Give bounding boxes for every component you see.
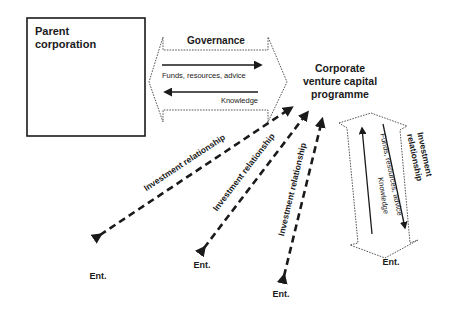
parent-label-line2: corporation — [35, 38, 96, 50]
cvc-diagram: Parent corporation Governance Funds, res… — [0, 0, 458, 321]
cvc-label-line2: venture capital — [303, 75, 377, 87]
detail-block: Knowledge Funds, resources, advice Inves… — [339, 113, 435, 258]
governance-knowledge-label: Knowledge — [221, 96, 258, 105]
governance-title: Governance — [187, 35, 245, 46]
venture-label-3: Ent. — [273, 289, 290, 299]
cvc-node: Corporate venture capital programme — [303, 62, 377, 100]
governance-block: Governance Funds, resources, advice Know… — [149, 35, 287, 122]
cvc-label-line3: programme — [311, 88, 369, 100]
governance-funds-label: Funds, resources, advice — [162, 71, 246, 80]
cvc-label-line1: Corporate — [315, 62, 365, 74]
investment-edge-3-label: Investment relationship — [276, 142, 308, 237]
parent-corporation-node: Parent corporation — [27, 18, 145, 136]
venture-label-4: Ent. — [383, 257, 400, 267]
parent-label-line1: Parent — [35, 25, 70, 37]
venture-label-2: Ent. — [194, 260, 211, 270]
venture-label-1: Ent. — [90, 271, 107, 281]
knowledge-arrow-up-icon — [362, 128, 372, 234]
investment-edge-1-label: Investment relationship — [142, 132, 227, 193]
